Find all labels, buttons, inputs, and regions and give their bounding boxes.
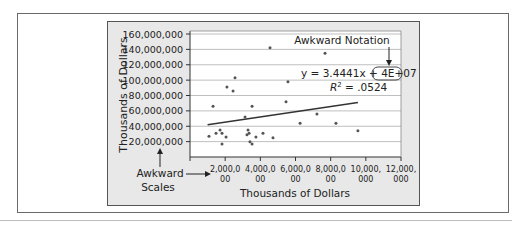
y-axis-title: Thousands of Dollars xyxy=(117,37,130,154)
data-point xyxy=(232,89,235,92)
data-point xyxy=(261,132,264,135)
y-tick-label: 140,000,000 xyxy=(123,44,183,55)
y-tick-label: 160,000,000 xyxy=(123,29,183,40)
data-point xyxy=(251,142,254,145)
data-point xyxy=(334,122,337,125)
x-tick-label: 4,000,0 xyxy=(245,165,276,174)
data-point xyxy=(248,132,251,135)
y-tick-label: 120,000,000 xyxy=(123,59,183,70)
y-tick-label: 80,000,000 xyxy=(129,90,183,101)
equation-constant: 4E+07 xyxy=(381,67,416,79)
x-tick-label-line2: 00 xyxy=(290,175,300,184)
data-point xyxy=(356,129,359,132)
data-point xyxy=(247,129,250,132)
x-tick-label-line2: 00 xyxy=(326,175,336,184)
x-tick-label: 8,000,0 xyxy=(315,165,346,174)
data-point xyxy=(269,46,272,49)
data-point xyxy=(221,132,224,135)
data-point xyxy=(244,116,247,119)
data-point xyxy=(248,140,251,143)
x-tick-label-line2: 000 xyxy=(393,175,408,184)
data-point xyxy=(271,136,274,139)
data-point xyxy=(299,122,302,125)
data-point xyxy=(315,112,318,115)
y-axis-ticks: 20,000,00040,000,00060,000,00080,000,000… xyxy=(123,29,190,148)
x-tick-label-line2: 00 xyxy=(255,175,265,184)
x-tick-label: 10,000, xyxy=(351,165,382,174)
awkward-scales-label-2: Scales xyxy=(141,181,175,193)
data-point xyxy=(225,136,228,139)
plot-area xyxy=(190,31,401,157)
x-tick-label: 12,000, xyxy=(386,165,417,174)
data-point xyxy=(221,142,224,145)
y-tick-label: 60,000,000 xyxy=(129,105,183,116)
awkward-notation-label: Awkward Notation xyxy=(294,34,390,46)
x-axis-title: Thousands of Dollars xyxy=(239,187,350,199)
x-tick-label-line2: 00 xyxy=(220,175,230,184)
data-point xyxy=(251,105,254,108)
data-point xyxy=(286,80,289,83)
data-point xyxy=(234,76,237,79)
data-point xyxy=(207,135,210,138)
x-tick-label: 2,000,0 xyxy=(210,165,241,174)
y-tick-label: 20,000,000 xyxy=(129,136,183,147)
arrowhead-up-icon xyxy=(157,148,163,154)
x-axis-ticks: 2,000,0004,000,0006,000,0008,000,00010,0… xyxy=(210,157,416,184)
y-tick-label: 100,000,000 xyxy=(123,75,183,86)
data-point xyxy=(212,105,215,108)
x-tick-label-line2: 000 xyxy=(358,175,373,184)
data-point xyxy=(285,100,288,103)
x-tick-label: 6,000,0 xyxy=(280,165,311,174)
data-point xyxy=(225,86,228,89)
data-point xyxy=(219,129,222,132)
awkward-scales-label-1: Awkward xyxy=(136,167,183,179)
data-point xyxy=(324,52,327,55)
y-tick-label: 40,000,000 xyxy=(129,121,183,132)
trendline-equation: y = 3.4441x + 4E+07 xyxy=(301,67,417,79)
data-point xyxy=(254,136,257,139)
data-point xyxy=(215,132,218,135)
scatter-chart: 20,000,00040,000,00060,000,00080,000,000… xyxy=(0,0,512,227)
